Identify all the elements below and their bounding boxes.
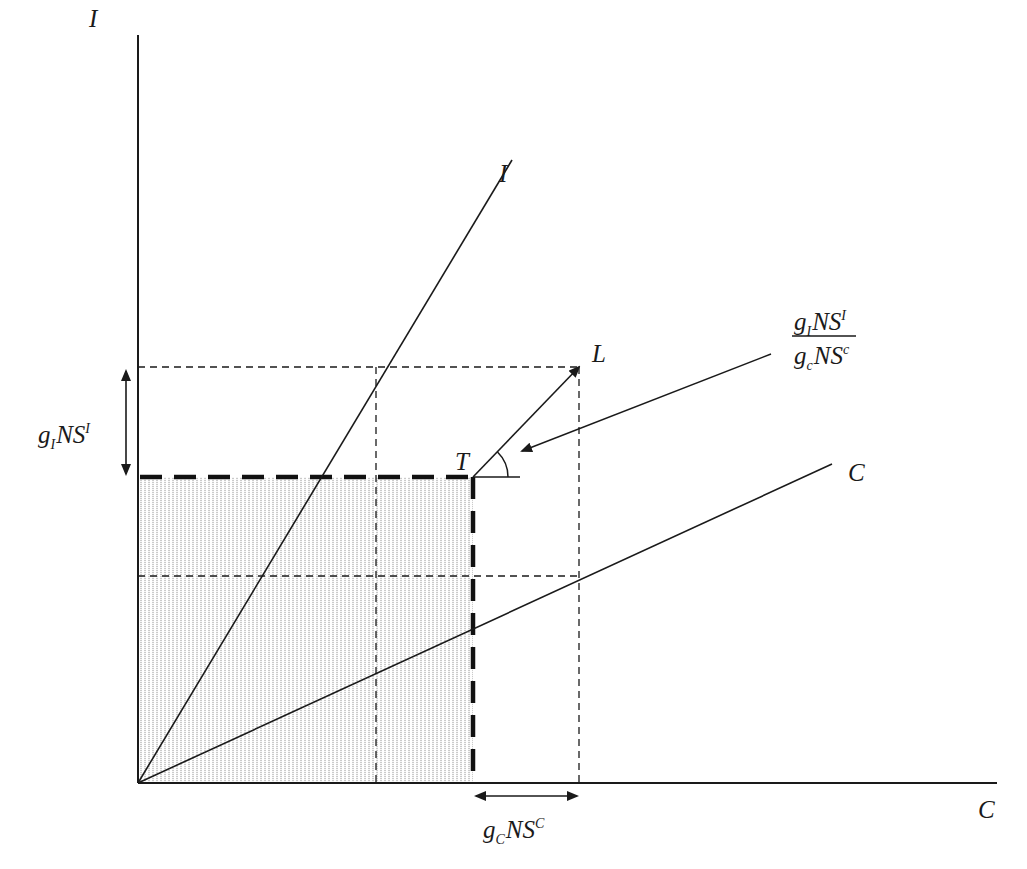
num-sup: I <box>840 308 847 323</box>
x-axis-label: C <box>978 796 995 823</box>
den-base: NS <box>813 342 844 369</box>
horizontal-span-label: gCNSC <box>483 816 545 847</box>
shaded-area <box>138 477 473 783</box>
den-sub: c <box>807 358 814 373</box>
slope-pointer-arrow <box>522 354 771 451</box>
slope-fraction: gINSI gcNSc <box>792 308 856 373</box>
den-sup: c <box>843 342 850 357</box>
diagram-canvas: I C I C T L gINSI gCNSC gINSI gcNSc <box>0 0 1027 869</box>
num-g: g <box>794 308 807 335</box>
hs-sup: C <box>535 816 545 831</box>
consumption-ray-label: C <box>848 459 865 486</box>
angle-arc <box>498 452 509 477</box>
den-g: g <box>794 342 807 369</box>
point-t-label: T <box>455 448 471 475</box>
vertical-span-label: gINSI <box>38 421 91 452</box>
vs-g: g <box>38 421 51 448</box>
fraction-numerator: gINSI <box>794 308 847 339</box>
vs-sup: I <box>84 421 91 436</box>
vs-base: NS <box>55 421 86 448</box>
fraction-denominator: gcNSc <box>794 342 850 373</box>
hs-g: g <box>483 816 496 843</box>
num-base: NS <box>811 308 842 335</box>
t-to-l-vector <box>473 367 579 477</box>
hs-sub: C <box>496 832 506 847</box>
hs-base: NS <box>505 816 536 843</box>
y-axis-label: I <box>88 5 99 32</box>
point-l-label: L <box>591 340 606 367</box>
investment-ray-label: I <box>498 160 509 187</box>
